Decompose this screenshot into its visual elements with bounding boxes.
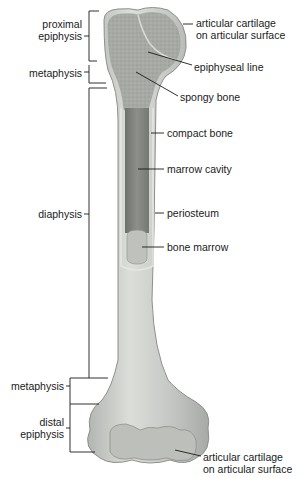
label-proximal-epiphysis: proximal epiphysis	[20, 18, 82, 42]
label-diaphysis: diaphysis	[10, 208, 82, 220]
label-articular-cartilage-top: articular cartilage on articular surface	[196, 17, 285, 41]
label-marrow-cavity: marrow cavity	[167, 163, 232, 175]
label-spongy-bone: spongy bone	[180, 91, 240, 103]
label-line: on articular surface	[203, 463, 292, 475]
label-line: articular cartilage	[203, 451, 292, 463]
label-line: on articular surface	[196, 29, 285, 41]
label-epiphyseal-line: epiphyseal line	[194, 61, 263, 73]
label-metaphysis-bottom: metaphysis	[0, 380, 64, 392]
label-articular-cartilage-bottom: articular cartilage on articular surface	[203, 451, 292, 475]
label-bone-marrow: bone marrow	[167, 241, 228, 253]
label-line: distal	[0, 416, 64, 428]
label-distal-epiphysis: distal epiphysis	[0, 416, 64, 440]
distal-condyles	[110, 424, 196, 461]
label-line: articular cartilage	[196, 17, 285, 29]
marrow-cavity-shape	[125, 108, 149, 233]
label-line: epiphysis	[20, 30, 82, 42]
label-line: proximal	[20, 18, 82, 30]
label-line: epiphysis	[0, 428, 64, 440]
label-periosteum: periosteum	[167, 207, 219, 219]
label-compact-bone: compact bone	[167, 127, 233, 139]
label-metaphysis-top: metaphysis	[10, 67, 82, 79]
